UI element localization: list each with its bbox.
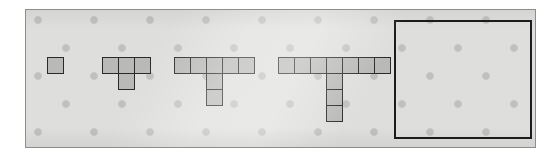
unit-square: [374, 57, 391, 74]
unit-square: [118, 73, 135, 90]
empty-answer-box[interactable]: [394, 20, 532, 139]
unit-square: [47, 57, 64, 74]
unit-square: [118, 57, 135, 74]
unit-square: [326, 57, 343, 74]
unit-square: [238, 57, 255, 74]
unit-square: [102, 57, 119, 74]
unit-square: [206, 57, 223, 74]
unit-square: [310, 57, 327, 74]
unit-square: [358, 57, 375, 74]
unit-square: [222, 57, 239, 74]
unit-square: [190, 57, 207, 74]
worksheet-panel: [25, 9, 536, 148]
unit-square: [326, 105, 343, 122]
unit-square: [134, 57, 151, 74]
unit-square: [294, 57, 311, 74]
unit-square: [342, 57, 359, 74]
unit-square: [326, 73, 343, 90]
unit-square: [206, 89, 223, 106]
unit-square: [326, 89, 343, 106]
unit-square: [278, 57, 295, 74]
pattern-sequence-figure: [0, 0, 558, 158]
unit-square: [174, 57, 191, 74]
unit-square: [206, 73, 223, 90]
